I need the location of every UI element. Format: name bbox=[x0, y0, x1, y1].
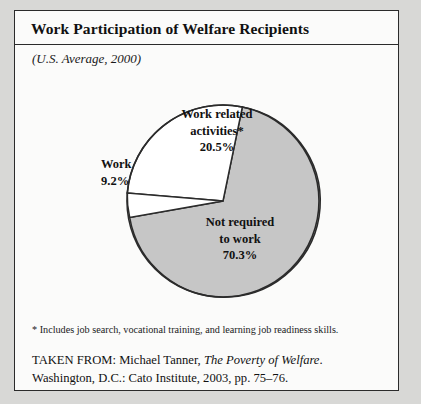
figure-footnote: * Includes job search, vocational traini… bbox=[32, 324, 338, 335]
source-prefix: TAKEN FROM: Michael Tanner, bbox=[32, 353, 204, 367]
pie-label-not-required-line1: Not required bbox=[175, 214, 305, 231]
source-book-title: The Poverty of Welfare bbox=[204, 353, 320, 367]
pie-label-not-required-line2: to work bbox=[175, 231, 305, 248]
pie-label-not-required: Not required to work 70.3% bbox=[175, 214, 305, 264]
pie-label-work-value: 9.2% bbox=[101, 173, 191, 190]
pie-label-work: Work 9.2% bbox=[101, 156, 191, 189]
source-citation: TAKEN FROM: Michael Tanner, The Poverty … bbox=[32, 352, 388, 388]
pie-label-work-line1: Work bbox=[101, 156, 191, 173]
pie-label-work-related-line1: Work related bbox=[147, 106, 287, 123]
pie-label-not-required-value: 70.3% bbox=[175, 247, 305, 264]
figure-frame: Work Participation of Welfare Recipients… bbox=[14, 10, 399, 391]
pie-label-work-related-value: 20.5% bbox=[147, 139, 287, 156]
pie-label-work-related: Work related activities* 20.5% bbox=[147, 106, 287, 156]
pie-label-work-related-line2: activities* bbox=[147, 123, 287, 140]
